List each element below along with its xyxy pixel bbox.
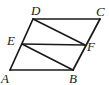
geometry-figure: A B C D E F (0, 0, 109, 85)
figure-canvas: A B C D E F (0, 0, 109, 85)
vertex-label-C: C (96, 4, 105, 19)
vertex-label-E: E (6, 33, 15, 48)
segment-EB (22, 44, 73, 70)
vertex-label-B: B (69, 71, 77, 85)
vertex-label-F: F (86, 39, 96, 54)
segment-DF (33, 19, 85, 45)
vertex-label-D: D (30, 3, 41, 18)
vertex-label-A: A (0, 71, 9, 85)
segment-EF (22, 44, 85, 45)
